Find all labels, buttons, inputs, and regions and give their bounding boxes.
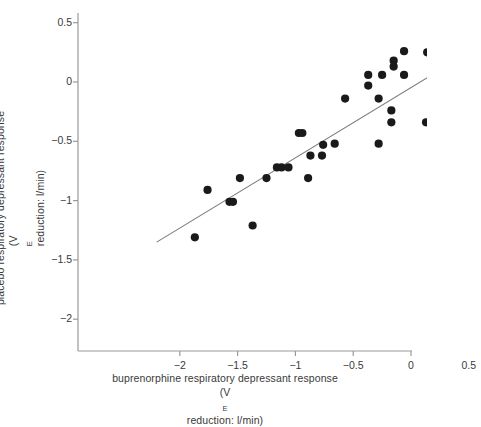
data-point	[400, 47, 408, 55]
x-tick-label: −0.5	[333, 359, 373, 371]
data-point	[319, 141, 327, 149]
data-point	[390, 62, 398, 70]
data-point	[378, 71, 386, 79]
data-point	[364, 71, 372, 79]
x-axis-label-line1: buprenorphine respiratory depressant res…	[40, 372, 410, 386]
y-tick-label: −1.5	[30, 253, 72, 265]
data-point	[387, 118, 395, 126]
x-tick-label: 0.5	[449, 359, 481, 371]
x-tick-label: −2	[160, 359, 200, 371]
y-tick-label: −0.5	[30, 134, 72, 146]
x-tick-label: 0	[391, 359, 431, 371]
data-point	[423, 48, 427, 56]
data-point	[400, 71, 408, 79]
data-point	[341, 95, 349, 103]
x-tick-label: −1.5	[218, 359, 258, 371]
data-point	[191, 233, 199, 241]
data-point	[249, 221, 257, 229]
y-axis-label: placebo respiratory depressant response …	[0, 0, 40, 416]
y-tick-label: 0.5	[30, 16, 72, 28]
data-point	[375, 95, 383, 103]
data-point	[203, 186, 211, 194]
data-point	[375, 140, 383, 148]
y-tick-label: −2	[30, 312, 72, 324]
regression-line	[157, 56, 427, 242]
data-point	[229, 198, 237, 206]
data-point	[304, 174, 312, 182]
data-point	[262, 174, 270, 182]
x-axis-label-line2: (VE reduction: l/min)	[40, 386, 410, 427]
x-tick-label: −1	[275, 359, 315, 371]
data-point	[387, 106, 395, 114]
data-point	[284, 163, 292, 171]
x-axis-label: buprenorphine respiratory depressant res…	[40, 372, 410, 427]
y-axis-label-line2: (VE reduction: l/min)	[7, 170, 47, 246]
data-point	[422, 118, 427, 126]
data-point	[236, 174, 244, 182]
data-point	[306, 151, 314, 159]
data-point	[331, 140, 339, 148]
y-tick-label: −1	[30, 194, 72, 206]
data-point	[364, 81, 372, 89]
data-point	[298, 129, 306, 137]
data-point	[318, 151, 326, 159]
y-tick-label: 0	[30, 75, 72, 87]
